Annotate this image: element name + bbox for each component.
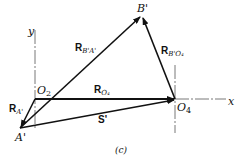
vector-r-bo4 <box>143 18 175 99</box>
o4-main: O <box>177 101 186 114</box>
vector-r-ba <box>20 17 140 128</box>
vector-s-label: S' <box>98 115 107 125</box>
r-ba-sub: B'A' <box>82 47 96 55</box>
r-o4-sub: O₄ <box>101 89 110 97</box>
figure-caption: (c) <box>115 146 127 155</box>
x-axis-label: x <box>228 96 234 107</box>
point-a-label: A' <box>15 132 26 143</box>
kinematic-vector-diagram: y x B' A' O2 O4 RB'A' RB'O₄ RO₄ RA' S' (… <box>0 0 241 161</box>
o2-main: O <box>37 84 46 97</box>
y-axis-label: y <box>28 26 34 37</box>
point-o4-label: O4 <box>177 102 191 113</box>
vector-r-ba-label: RB'A' <box>75 43 96 53</box>
point-b-label: B' <box>137 3 148 14</box>
point-o2-label: O2 <box>37 85 51 96</box>
diagram-canvas <box>0 0 241 161</box>
vector-r-o4-label: RO₄ <box>94 85 110 95</box>
r-bo4-sub: B'O₄ <box>168 50 184 58</box>
vector-r-bo4-label: RB'O₄ <box>161 46 184 56</box>
o2-sub: 2 <box>46 89 51 98</box>
r-a-sub: A' <box>16 108 23 116</box>
o4-sub: 4 <box>186 106 191 115</box>
vector-r-a-label: RA' <box>9 104 23 114</box>
vector-s <box>20 100 174 128</box>
